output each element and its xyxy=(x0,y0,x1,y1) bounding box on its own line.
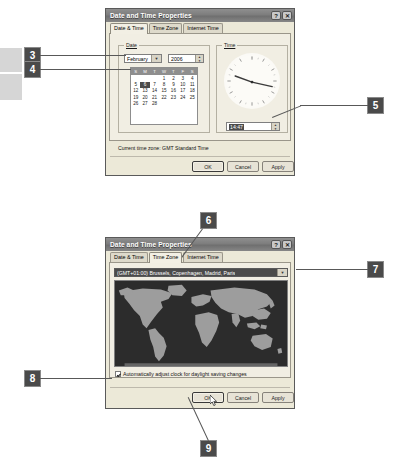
callout-4: 4 xyxy=(25,62,40,77)
margin-bar-top xyxy=(0,48,22,72)
ok-button[interactable]: OK xyxy=(192,392,224,403)
calendar-day-header: S xyxy=(131,68,140,75)
world-map[interactable] xyxy=(114,280,288,367)
close-icon[interactable]: ✕ xyxy=(282,11,292,20)
tab-time-zone[interactable]: Time Zone xyxy=(149,252,183,263)
ok-button[interactable]: OK xyxy=(192,161,224,172)
dialog1-separator xyxy=(110,156,290,157)
tab-internet-time[interactable]: Internet Time xyxy=(183,23,222,33)
time-spinner-value: 14:47 xyxy=(229,124,244,130)
current-time-zone-status: Current time zone: GMT Standard Time xyxy=(118,145,209,151)
callout-7-leader xyxy=(296,269,368,270)
callout-4-leader xyxy=(40,69,131,70)
date-time-properties-dialog-2[interactable]: Date and Time Properties ? ✕ Date & Time… xyxy=(105,237,295,409)
help-icon[interactable]: ? xyxy=(271,240,281,249)
time-group-label: Time xyxy=(222,42,237,48)
calendar-day-grid[interactable]: 1234567891011121314151617181920212223242… xyxy=(131,75,197,107)
calendar-day-cell[interactable]: 22 xyxy=(159,95,168,101)
help-icon[interactable]: ? xyxy=(271,11,281,20)
calendar-day-cell[interactable]: 24 xyxy=(178,95,187,101)
calendar-day-cell[interactable]: 27 xyxy=(140,101,149,107)
month-dropdown[interactable]: February ▼ xyxy=(124,54,162,63)
calendar-day-cell[interactable]: 25 xyxy=(188,95,197,101)
timezone-dropdown[interactable]: (GMT+01:00) Brussels, Copenhagen, Madrid… xyxy=(114,268,288,277)
dialog1-tabstrip[interactable]: Date & Time Time Zone Internet Time xyxy=(106,22,294,33)
dialog2-tabstrip[interactable]: Date & Time Time Zone Internet Time xyxy=(106,251,294,262)
callout-3-leader xyxy=(40,55,126,56)
dialog2-titlebar-buttons[interactable]: ? ✕ xyxy=(271,240,292,249)
date-time-properties-dialog-1[interactable]: Date and Time Properties ? ✕ Date & Time… xyxy=(105,8,295,176)
dialog2-separator xyxy=(110,387,290,388)
cancel-button[interactable]: Cancel xyxy=(227,161,259,172)
calendar-day-header: M xyxy=(140,68,149,75)
apply-button[interactable]: Apply xyxy=(262,161,294,172)
close-icon[interactable]: ✕ xyxy=(282,240,292,249)
tab-internet-time[interactable]: Internet Time xyxy=(183,252,222,262)
date-group-label: Date xyxy=(124,42,139,48)
year-spinner[interactable]: 2006 ▲ ▼ xyxy=(168,54,204,63)
chevron-down-icon[interactable]: ▼ xyxy=(151,55,161,62)
callout-5-leader-h xyxy=(300,105,368,106)
tab-time-zone[interactable]: Time Zone xyxy=(149,23,183,33)
callout-8: 8 xyxy=(25,371,40,386)
dialog1-title: Date and Time Properties xyxy=(110,12,271,19)
tab-date-and-time[interactable]: Date & Time xyxy=(110,23,148,34)
spin-down-icon[interactable]: ▼ xyxy=(272,127,279,131)
mouse-cursor xyxy=(210,395,218,406)
timezone-dropdown-value: (GMT+01:00) Brussels, Copenhagen, Madrid… xyxy=(117,270,235,276)
year-spinner-buttons[interactable]: ▲ ▼ xyxy=(195,55,203,62)
dialog2-titlebar[interactable]: Date and Time Properties ? ✕ xyxy=(106,238,294,251)
apply-button[interactable]: Apply xyxy=(262,392,294,403)
dst-checkbox-row[interactable]: Automatically adjust clock for daylight … xyxy=(115,371,247,377)
calendar-day-header: F xyxy=(178,68,187,75)
calendar-day-header: W xyxy=(159,68,168,75)
dst-checkbox-label: Automatically adjust clock for daylight … xyxy=(123,371,247,377)
cancel-button[interactable]: Cancel xyxy=(227,392,259,403)
callout-6: 6 xyxy=(201,213,216,228)
calendar-day-header: T xyxy=(169,68,178,75)
dialog1-titlebar[interactable]: Date and Time Properties ? ✕ xyxy=(106,9,294,22)
calendar[interactable]: SMTWTFS 12345678910111213141516171819202… xyxy=(130,67,198,125)
calendar-day-headers: SMTWTFS xyxy=(131,68,197,75)
callout-9: 9 xyxy=(201,441,216,456)
time-spinner-buttons[interactable]: ▲ ▼ xyxy=(271,123,279,130)
callout-8-leader xyxy=(40,378,112,379)
spin-down-icon[interactable]: ▼ xyxy=(196,59,203,63)
year-spinner-value: 2006 xyxy=(171,56,183,62)
calendar-day-header: T xyxy=(150,68,159,75)
dialog1-titlebar-buttons[interactable]: ? ✕ xyxy=(271,11,292,20)
callout-5: 5 xyxy=(368,98,383,113)
tab-date-and-time[interactable]: Date & Time xyxy=(110,252,148,262)
figure-page: Date and Time Properties ? ✕ Date & Time… xyxy=(0,0,399,464)
calendar-day-cell[interactable]: 23 xyxy=(169,95,178,101)
callout-3: 3 xyxy=(25,48,40,63)
margin-bar-bottom xyxy=(0,74,22,100)
calendar-day-header: S xyxy=(188,68,197,75)
calendar-day-cell[interactable]: 28 xyxy=(150,101,159,107)
time-spinner[interactable]: 14:47 ▲ ▼ xyxy=(226,122,280,131)
check-icon[interactable] xyxy=(115,371,121,377)
callout-7: 7 xyxy=(368,262,383,277)
analog-clock xyxy=(224,53,280,109)
chevron-down-icon[interactable]: ▼ xyxy=(277,269,287,276)
calendar-day-cell[interactable]: 26 xyxy=(131,101,140,107)
month-dropdown-value: February xyxy=(127,56,148,62)
